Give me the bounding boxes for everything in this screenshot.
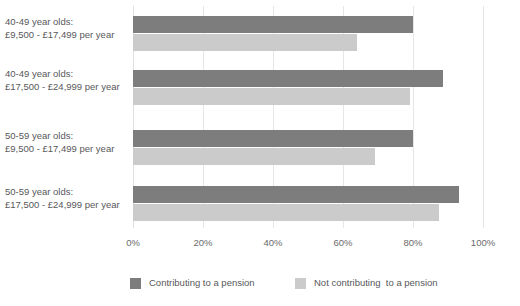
legend-swatch-icon-contributing: [130, 278, 141, 289]
category-label-40-49-higher-income: 40-49 year olds: £17,500 - £24,999 per y…: [5, 68, 131, 93]
legend-item-contributing: Contributing to a pension: [130, 277, 255, 289]
legend-swatch-icon-not-contributing: [295, 278, 306, 289]
bar-contributing-40-49-lower: [133, 16, 413, 33]
chart-legend: Contributing to a pension Not contributi…: [0, 277, 520, 297]
category-label-50-59-higher-income: 50-59 year olds: £17,500 - £24,999 per y…: [5, 186, 131, 211]
bar-not-contributing-40-49-lower: [133, 34, 357, 51]
x-tick-label-60: 60%: [333, 237, 352, 249]
bar-not-contributing-50-59-lower: [133, 148, 375, 165]
legend-label-contributing: Contributing to a pension: [149, 277, 255, 289]
x-tick-label-80: 80%: [403, 237, 422, 249]
x-tick-label-0: 0%: [126, 237, 140, 249]
legend-item-not-contributing: Not contributing to a pension: [295, 277, 438, 289]
bar-contributing-50-59-higher: [133, 186, 459, 203]
legend-label-not-contributing: Not contributing to a pension: [314, 277, 438, 289]
x-tick-label-100: 100%: [471, 237, 495, 249]
category-label-40-49-lower-income: 40-49 year olds: £9,500 - £17,499 per ye…: [5, 16, 131, 41]
gridline-100: [483, 6, 484, 228]
bar-not-contributing-50-59-higher: [133, 204, 439, 221]
category-label-50-59-lower-income: 50-59 year olds: £9,500 - £17,499 per ye…: [5, 130, 131, 155]
bar-chart: 40-49 year olds: £9,500 - £17,499 per ye…: [0, 0, 520, 306]
x-tick-label-20: 20%: [193, 237, 212, 249]
x-tick-label-40: 40%: [263, 237, 282, 249]
bar-contributing-50-59-lower: [133, 130, 413, 147]
bar-not-contributing-40-49-higher: [133, 88, 410, 105]
plot-area: 0% 20% 40% 60% 80% 100%: [133, 6, 483, 228]
bar-contributing-40-49-higher: [133, 70, 443, 87]
